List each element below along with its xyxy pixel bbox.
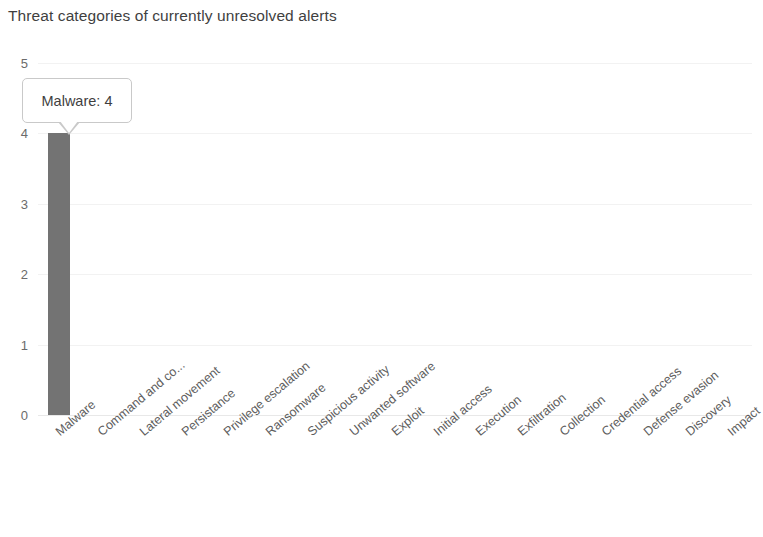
chart-title: Threat categories of currently unresolve…	[8, 7, 337, 25]
y-axis-tick-label: 5	[21, 57, 28, 70]
y-axis-tick-label: 0	[21, 409, 28, 422]
y-axis-tick-label: 1	[21, 338, 28, 351]
y-axis-tick-label: 2	[21, 268, 28, 281]
bar[interactable]	[48, 133, 70, 415]
tooltip-label: Malware: 4	[42, 93, 113, 109]
data-tooltip[interactable]: Malware: 4	[22, 78, 132, 123]
y-axis-tick-label: 3	[21, 197, 28, 210]
bars-layer	[38, 63, 752, 415]
y-axis-tick-label: 4	[21, 127, 28, 140]
tooltip-pointer-fill	[60, 121, 78, 133]
x-axis: MalwareCommand and co...Lateral movement…	[38, 416, 752, 537]
